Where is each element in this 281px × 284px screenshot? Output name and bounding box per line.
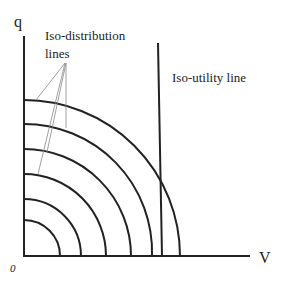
iso-utility-line xyxy=(158,43,162,256)
iso-utility-label: Iso-utility line xyxy=(172,70,246,85)
iso-distribution-label-line2: lines xyxy=(45,46,70,61)
iso-distribution-label: Iso-distribution xyxy=(45,28,126,43)
x-axis-label: V xyxy=(259,249,271,266)
iso-distribution-arcs xyxy=(24,100,180,256)
leader-lines xyxy=(36,63,66,174)
y-axis-label: q xyxy=(14,13,22,31)
iso-distribution-arc-2 xyxy=(24,199,81,256)
origin-label: 0 xyxy=(10,262,16,274)
diagram-canvas: q V 0 Iso-distribution lines Iso-utility… xyxy=(0,0,281,284)
iso-distribution-arc-1 xyxy=(24,220,60,256)
